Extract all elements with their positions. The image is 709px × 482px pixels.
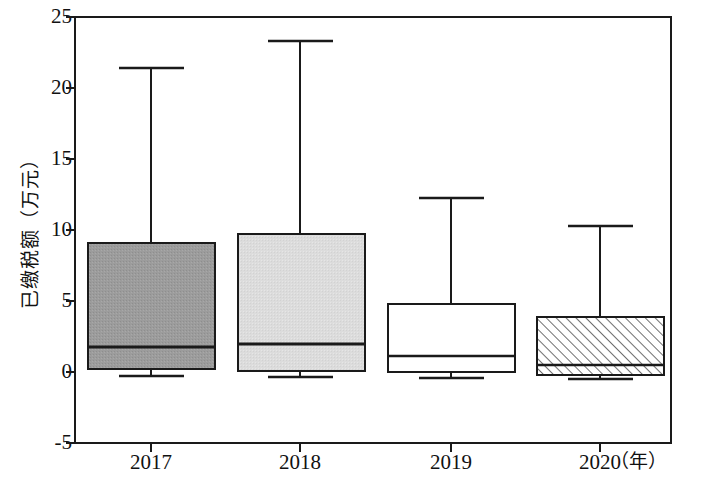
x-tick-label-2018: 2018 — [255, 452, 345, 473]
x-tick-label-2019: 2019 — [406, 452, 496, 473]
boxplot-chart: 已缴税额（万元） 25 20 15 10 5 0 -5 — [0, 0, 709, 482]
x-axis-unit-label: （年） — [610, 452, 667, 471]
x-axis-ticks — [151, 443, 600, 452]
x-tick-label-2017: 2017 — [106, 452, 196, 473]
box-2018 — [238, 41, 365, 377]
y-axis-ticks — [66, 17, 75, 443]
box-2020 — [537, 226, 664, 379]
box-2019 — [388, 198, 515, 378]
box-2017 — [88, 68, 215, 376]
plot-area — [0, 0, 709, 482]
